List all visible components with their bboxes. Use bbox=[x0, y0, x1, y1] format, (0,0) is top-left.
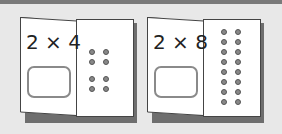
answer-box[interactable] bbox=[154, 66, 198, 98]
dot bbox=[103, 76, 109, 82]
dot bbox=[235, 29, 241, 35]
top-bar bbox=[0, 0, 282, 4]
flashcard-2x4: 2 × 4 bbox=[20, 17, 137, 117]
dot bbox=[89, 59, 95, 65]
dot bbox=[235, 59, 241, 65]
dot bbox=[235, 49, 241, 55]
dot-array bbox=[89, 49, 109, 92]
dot bbox=[221, 89, 227, 95]
card-right-page bbox=[203, 19, 261, 117]
dot bbox=[103, 59, 109, 65]
dot bbox=[221, 79, 227, 85]
multiplication-expression: 2 × 8 bbox=[153, 30, 208, 54]
dot bbox=[103, 49, 109, 55]
dot bbox=[221, 49, 227, 55]
dot bbox=[235, 69, 241, 75]
dot bbox=[235, 99, 241, 105]
multiplication-expression: 2 × 4 bbox=[26, 30, 81, 54]
card-right-page bbox=[76, 19, 134, 117]
dot bbox=[235, 89, 241, 95]
dot bbox=[89, 86, 95, 92]
answer-box[interactable] bbox=[27, 66, 71, 98]
dot bbox=[221, 99, 227, 105]
dot bbox=[221, 59, 227, 65]
dot bbox=[235, 39, 241, 45]
dot bbox=[221, 39, 227, 45]
dot bbox=[103, 86, 109, 92]
flashcard-2x8: 2 × 8 bbox=[147, 17, 264, 117]
dot-array bbox=[221, 29, 241, 105]
dot bbox=[89, 49, 95, 55]
dot bbox=[221, 29, 227, 35]
dot bbox=[235, 79, 241, 85]
dot bbox=[221, 69, 227, 75]
dot bbox=[89, 76, 95, 82]
